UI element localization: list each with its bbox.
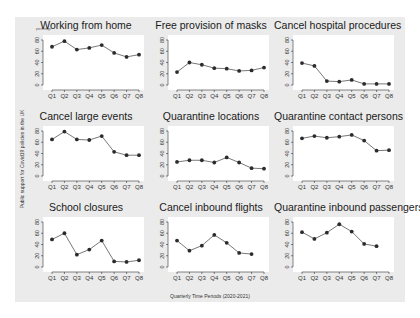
x-tick-label: Q3 [198,184,207,190]
data-point [375,149,379,153]
line-plot: 020406080Q1Q2Q3Q4Q5Q6Q7Q8 [274,19,398,109]
x-tick-label: Q1 [48,184,57,190]
data-point [100,134,104,138]
x-tick-label: Q8 [135,275,144,281]
x-tick-label: Q6 [235,275,244,281]
y-tick-label: 80 [159,219,165,225]
y-tick-label: 0 [34,83,40,86]
x-tick-label: Q8 [385,184,394,190]
x-tick-label: Q1 [173,184,182,190]
y-tick-label: 20 [34,162,40,168]
panel-school-closures: School closures020406080Q1Q2Q3Q4Q5Q6Q7Q8 [24,201,148,291]
y-tick-label: 80 [34,37,40,43]
x-tick-label: Q8 [260,184,269,190]
x-tick-label: Q6 [110,275,119,281]
y-tick-label: 60 [34,48,40,54]
y-tick-label: 80 [34,128,40,134]
x-tick-label: Q5 [348,275,357,281]
x-tick-label: Q2 [60,93,69,99]
data-point [387,82,391,86]
plot-area [168,35,269,90]
data-point [50,138,54,142]
data-point [50,45,54,49]
chart-figure: percentage Public support for Covid19 po… [15,17,405,302]
data-point [237,69,241,73]
data-point [112,259,116,263]
y-tick-label: 80 [159,37,165,43]
plot-area [293,35,394,90]
data-point [63,231,67,235]
data-point [188,249,192,253]
y-tick-label: 60 [159,230,165,236]
data-point [175,70,179,74]
x-tick-label: Q4 [85,275,94,281]
y-tick-label: 40 [284,150,290,156]
plot-area [168,126,269,181]
x-tick-label: Q1 [298,275,307,281]
x-tick-label: Q6 [110,93,119,99]
x-tick-label: Q6 [235,93,244,99]
data-point [313,134,317,138]
y-tick-label: 60 [284,48,290,54]
y-tick-label: 20 [159,162,165,168]
y-tick-label: 60 [159,48,165,54]
data-point [225,241,229,245]
line-plot: 020406080Q1Q2Q3Q4Q5Q6Q7Q8 [149,19,273,109]
y-tick-label: 0 [159,174,165,177]
y-tick-label: 0 [284,83,290,86]
data-point [175,160,179,164]
line-plot: 020406080Q1Q2Q3Q4Q5Q6Q7Q8 [274,201,398,291]
y-tick-label: 80 [284,37,290,43]
plot-area [43,217,144,272]
data-point [262,167,266,171]
x-tick-label: Q4 [85,93,94,99]
data-point [200,244,204,248]
y-tick-label: 80 [159,128,165,134]
x-tick-label: Q3 [323,275,332,281]
y-tick-label: 20 [284,71,290,77]
x-tick-label: Q3 [73,93,82,99]
x-tick-label: Q7 [373,184,382,190]
y-tick-label: 20 [284,162,290,168]
x-tick-label: Q5 [348,184,357,190]
x-tick-label: Q6 [360,275,369,281]
y-tick-label: 40 [34,241,40,247]
data-point [362,139,366,143]
data-point [50,238,54,242]
x-tick-label: Q4 [335,275,344,281]
data-point [100,43,104,47]
x-tick-label: Q7 [248,275,257,281]
x-tick-label: Q5 [98,184,107,190]
x-tick-label: Q2 [60,275,69,281]
x-tick-label: Q1 [48,275,57,281]
x-tick-label: Q6 [360,184,369,190]
x-tick-label: Q8 [135,184,144,190]
y-tick-label: 80 [284,219,290,225]
data-point [362,242,366,246]
data-point [313,64,317,68]
x-tick-label: Q6 [110,184,119,190]
x-tick-label: Q6 [360,93,369,99]
x-tick-label: Q3 [73,275,82,281]
data-point [200,63,204,67]
x-tick-label: Q2 [310,184,319,190]
data-point [175,239,179,243]
plot-area [43,126,144,181]
plot-area [168,217,269,272]
data-point [212,66,216,70]
x-tick-label: Q4 [210,93,219,99]
data-point [250,252,254,256]
data-point [325,79,329,83]
x-tick-label: Q3 [198,275,207,281]
data-point [212,161,216,165]
x-tick-label: Q5 [348,93,357,99]
plot-area [293,217,394,272]
panel-free-provision-of-masks: Free provision of masks020406080Q1Q2Q3Q4… [149,19,273,109]
x-tick-label: Q8 [385,93,394,99]
data-point [300,61,304,65]
y-tick-label: 0 [284,174,290,177]
data-point [63,39,67,43]
data-point [137,53,141,57]
x-tick-label: Q4 [335,93,344,99]
y-tick-label: 40 [159,150,165,156]
